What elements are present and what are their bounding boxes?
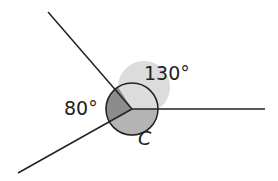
angle-diagram: 130° 80° C	[0, 0, 278, 181]
label-c: C	[138, 127, 152, 149]
label-130: 130°	[144, 62, 190, 84]
label-80: 80°	[64, 97, 98, 119]
ray-upper-left	[48, 12, 132, 109]
